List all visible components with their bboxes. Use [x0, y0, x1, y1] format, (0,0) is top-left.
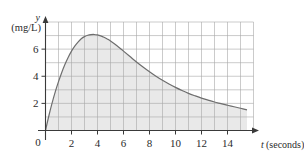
- figure-container: 246 2468101214 0 y (mg/L) t (seconds): [0, 0, 304, 153]
- x-axis-tick-marks: [72, 131, 228, 135]
- y-axis-arrowhead: [43, 16, 49, 23]
- x-tick-label: 6: [121, 137, 127, 149]
- origin-label: 0: [35, 136, 41, 148]
- y-tick-label: 2: [33, 97, 39, 109]
- x-tick-label: 2: [69, 137, 75, 149]
- y-axis-tick-marks: [42, 49, 46, 103]
- x-axis-symbol-label: t: [261, 139, 264, 150]
- x-tick-label: 10: [170, 137, 182, 149]
- y-axis-unit-label: (mg/L): [11, 22, 41, 34]
- y-tick-label: 6: [33, 43, 39, 55]
- concentration-vs-time-graph: 246 2468101214 0 y (mg/L) t (seconds): [0, 0, 304, 153]
- x-axis-arrowhead: [252, 128, 259, 134]
- x-tick-label: 8: [147, 137, 153, 149]
- x-axis-tick-labels: 2468101214: [69, 137, 234, 149]
- y-tick-label: 4: [33, 70, 39, 82]
- x-tick-label: 4: [95, 137, 101, 149]
- x-tick-label: 14: [222, 137, 234, 149]
- y-axis-tick-labels: 246: [33, 43, 39, 109]
- x-tick-label: 12: [196, 137, 207, 149]
- x-axis-unit-label: (seconds): [266, 139, 304, 151]
